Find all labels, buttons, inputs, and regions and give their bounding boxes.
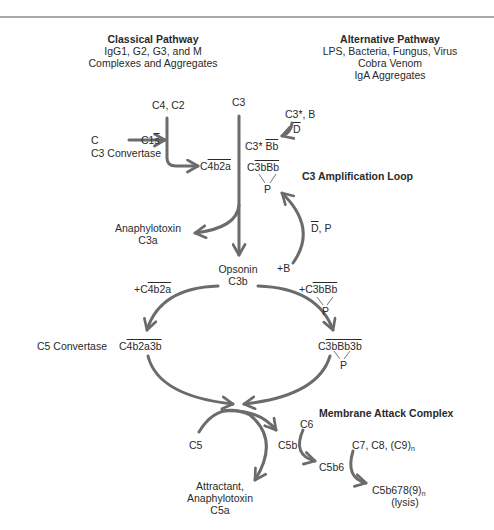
c7-c8-c9-text: C7, C8, (C9): [352, 439, 411, 451]
p-link-c3bbb3b: [334, 351, 350, 359]
attractant-label: Attractant,: [180, 480, 260, 492]
c5b6789-text: C5b678(9): [372, 484, 422, 496]
plus-b-label: +B: [277, 262, 290, 274]
amplification-loop-title: C3 Amplification Loop: [302, 170, 413, 182]
arrow-c6-to-c5b6: [299, 430, 315, 461]
d-p-rest: , P: [319, 222, 332, 234]
c3bbb-prefix: C: [247, 161, 255, 173]
alternative-pathway-line2: Cobra Venom: [320, 57, 460, 69]
arrow-amplification-loop: [282, 193, 303, 263]
alternative-pathway-title: Alternative Pathway: [320, 33, 460, 45]
c5-convertase-label: C5 Convertase: [37, 340, 107, 352]
p-label-2: P: [322, 305, 329, 317]
c3star-b-label: C3*, B: [285, 108, 315, 120]
alternative-pathway-line1: LPS, Bacteria, Fungus, Virus: [300, 45, 480, 57]
bb-bar: Bb: [265, 140, 278, 152]
c3star-bb-label: C3* Bb: [245, 140, 278, 152]
classical-pathway-line1: IgG1, G2, G3, and M: [78, 45, 228, 57]
mac-title: Membrane Attack Complex: [319, 407, 453, 419]
lysis-label: (lysis): [375, 496, 435, 508]
c3a-label: C3a: [108, 234, 188, 246]
classical-pathway-title: Classical Pathway: [88, 33, 218, 45]
c5-label: C5: [189, 439, 202, 451]
c4b2a3b-label: C4b2a3b: [119, 340, 162, 352]
d-bar-label: D: [293, 123, 301, 135]
arrow-c5-to-c5a: [199, 410, 266, 480]
c5b6-label: C5b6: [319, 461, 344, 473]
anaphylotoxin-label: Anaphylotoxin: [108, 222, 188, 234]
c6-label: C6: [300, 418, 313, 430]
arrow-c5-to-c5b: [222, 411, 276, 430]
c1s-bar: s: [154, 134, 159, 146]
arrow-c4c2-to-c4b2a: [167, 118, 198, 166]
d-bar-2: D: [311, 222, 319, 234]
plus-c3bbb-label: +C3bBb: [299, 283, 337, 295]
plus-c3bbb-bar: 3bBb: [313, 283, 338, 295]
alternative-pathway-line3: IgA Aggregates: [320, 69, 460, 81]
c3bbb3b-prefix: C: [318, 340, 326, 352]
p-label-1: P: [264, 183, 271, 195]
p-link-plus-c3bbb: [317, 297, 333, 305]
anaphylotoxin2-label: Anaphylotoxin: [180, 492, 260, 504]
opsonin-label: Opsonin: [210, 263, 266, 275]
c5b-label: C5b: [278, 439, 297, 451]
c3b-label: C3b: [210, 275, 266, 287]
c7-c8-c9-label: C7, C8, (C9)n: [352, 439, 415, 455]
c4-c2-label: C4, C2: [152, 99, 185, 111]
c4b2a3b-bar: 4b2a3b: [127, 340, 162, 352]
c4b2a-prefix: C: [200, 160, 208, 172]
subscript-n-1: n: [411, 445, 415, 452]
c1s-label: C1s: [141, 134, 160, 146]
plus-c4b2a-bar: 4b2a: [148, 283, 171, 295]
c4b2a3b-prefix: C: [119, 340, 127, 352]
c4b2a-label: C4b2a: [200, 160, 231, 172]
arrow-c3bbb3b-to-c5: [244, 356, 330, 404]
c3-top-label: C3: [232, 96, 245, 108]
plus-c4b2a-label: +C4b2a: [134, 283, 171, 295]
arrow-c3-to-c3a: [195, 205, 239, 233]
d-p-label: D, P: [311, 222, 331, 234]
p-link-c3bbb: [259, 174, 276, 183]
c3bbb3b-label: C3bBb3b: [318, 340, 362, 352]
c3-convertase-label: C3 Convertase: [91, 147, 161, 159]
arrow-c3star-b-to-c3star-bb: [282, 123, 292, 136]
c3bbb-label: C3bBb: [247, 161, 279, 173]
c-label: C: [91, 134, 99, 146]
c4b2a-bar: 4b2a: [208, 160, 231, 172]
classical-pathway-line2: Complexes and Aggregates: [68, 57, 238, 69]
c3bbb-bar: 3bBb: [255, 161, 280, 173]
c3bbb3b-bar: 3bBb3b: [326, 340, 362, 352]
arrow-c7-to-c5b678: [351, 451, 366, 483]
p-label-3: P: [340, 359, 347, 371]
c3star-text: C3*: [245, 140, 263, 152]
c1s-text: C1: [141, 134, 154, 146]
plus-c3bbb-prefix: +C: [299, 283, 313, 295]
c5a-label: C5a: [180, 504, 260, 516]
plus-c4b2a-prefix: +C: [134, 283, 148, 295]
arrow-c4b2a3b-to-c5: [148, 356, 233, 404]
